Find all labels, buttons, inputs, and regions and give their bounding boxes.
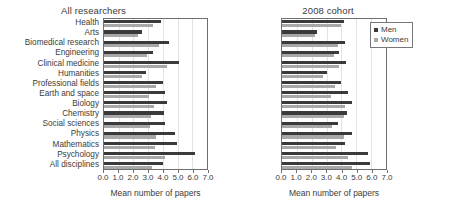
bar-women xyxy=(104,115,151,118)
bar-women xyxy=(282,115,344,118)
bar-group xyxy=(282,151,386,161)
x-axis-tick-label: 6.0 xyxy=(366,173,377,182)
bar-group xyxy=(104,90,207,100)
bar-men xyxy=(104,122,165,125)
bar-men xyxy=(104,152,195,155)
bar-women xyxy=(282,44,338,47)
bar-men xyxy=(104,101,167,104)
x-axis-tick-label: 4.0 xyxy=(157,173,168,182)
y-axis-label: Engineering xyxy=(0,48,99,58)
y-axis-label: Social sciences xyxy=(0,119,99,129)
bar-group xyxy=(104,29,207,39)
x-axis-tick-label: 7.0 xyxy=(202,173,213,182)
bar-men xyxy=(104,81,163,84)
bar-men xyxy=(104,61,179,64)
x-axis-tick-label: 2.0 xyxy=(306,173,317,182)
x-axis-tick-label: 4.0 xyxy=(336,173,347,182)
x-axis-tick-label: 1.0 xyxy=(112,173,123,182)
bar-group xyxy=(104,60,207,70)
legend: Men Women xyxy=(370,22,413,48)
bar-men xyxy=(104,41,169,44)
bar-rows-all-researchers xyxy=(104,19,207,169)
y-axis-label: Humanities xyxy=(0,69,99,79)
y-axis-label: Physics xyxy=(0,129,99,139)
bar-group xyxy=(104,100,207,110)
x-axis-title-all-researchers: Mean number of papers xyxy=(103,188,208,198)
x-axis-tick-label: 5.0 xyxy=(172,173,183,182)
y-axis-category-labels: HealthArtsBiomedical researchEngineering… xyxy=(0,18,99,170)
bar-group xyxy=(282,60,386,70)
y-axis-label: Mathematics xyxy=(0,140,99,150)
panel-2008-cohort: 2008 cohort Men Women 0.01.02.03.04.05.0… xyxy=(231,0,461,211)
bar-men xyxy=(104,20,161,23)
y-axis-label: Biomedical research xyxy=(0,38,99,48)
bar-women xyxy=(104,85,156,88)
legend-label-men: Men xyxy=(381,25,397,35)
bar-women xyxy=(104,54,147,57)
bar-women xyxy=(282,65,339,68)
bar-group xyxy=(104,151,207,161)
x-axis-tick-label: 3.0 xyxy=(321,173,332,182)
bar-group xyxy=(104,19,207,29)
bar-men xyxy=(282,101,352,104)
x-axis-tick-label: 0.0 xyxy=(97,173,108,182)
bar-group xyxy=(104,120,207,130)
bar-men xyxy=(282,81,341,84)
bar-men xyxy=(104,30,142,33)
bar-women xyxy=(104,65,167,68)
bar-women xyxy=(282,156,348,159)
bar-men xyxy=(282,91,348,94)
bar-men xyxy=(282,132,352,135)
bar-women xyxy=(104,156,165,159)
bar-men xyxy=(282,162,370,165)
legend-swatch-women-icon xyxy=(374,38,378,42)
bar-women xyxy=(282,125,332,128)
bar-men xyxy=(104,162,163,165)
bar-men xyxy=(282,41,345,44)
bar-women xyxy=(282,75,323,78)
bar-group xyxy=(282,161,386,170)
x-axis-tick-label: 0.0 xyxy=(275,173,286,182)
panel-all-researchers: All researchers HealthArtsBiomedical res… xyxy=(0,0,231,211)
bar-men xyxy=(104,71,146,74)
bar-men xyxy=(104,51,153,54)
x-axis-tick-label: 1.0 xyxy=(291,173,302,182)
bar-men xyxy=(282,142,345,145)
bar-women xyxy=(104,75,142,78)
bar-women xyxy=(282,54,334,57)
bar-group xyxy=(282,130,386,140)
x-axis-ticks-2008-cohort: 0.01.02.03.04.05.06.07.0 xyxy=(281,170,387,184)
gridline xyxy=(207,19,208,169)
panel-title-2008-cohort: 2008 cohort xyxy=(213,5,443,16)
bar-women xyxy=(104,44,159,47)
x-axis-tick-label: 2.0 xyxy=(127,173,138,182)
bar-group xyxy=(282,49,386,59)
y-axis-label: Earth and space xyxy=(0,89,99,99)
bar-group xyxy=(104,80,207,90)
bar-women xyxy=(282,34,315,37)
bar-women xyxy=(282,85,335,88)
bar-women xyxy=(104,95,149,98)
bar-women xyxy=(104,105,154,108)
bar-group xyxy=(282,100,386,110)
bar-group xyxy=(282,80,386,90)
bar-women xyxy=(282,135,344,138)
figure-container: All researchers HealthArtsBiomedical res… xyxy=(0,0,461,211)
bar-women xyxy=(104,166,152,169)
bar-women xyxy=(282,146,336,149)
bar-group xyxy=(282,70,386,80)
bar-group xyxy=(104,130,207,140)
panel-title-all-researchers: All researchers xyxy=(0,5,209,16)
bar-men xyxy=(104,91,165,94)
x-axis-tick-label: 3.0 xyxy=(142,173,153,182)
bar-women xyxy=(282,95,331,98)
bar-men xyxy=(104,142,177,145)
bar-women xyxy=(104,34,138,37)
bar-men xyxy=(104,132,175,135)
x-axis-tick-label: 5.0 xyxy=(351,173,362,182)
bar-men xyxy=(282,111,347,114)
bar-women xyxy=(104,24,153,27)
bar-men xyxy=(282,152,368,155)
bar-group xyxy=(104,39,207,49)
y-axis-label: Biology xyxy=(0,99,99,109)
